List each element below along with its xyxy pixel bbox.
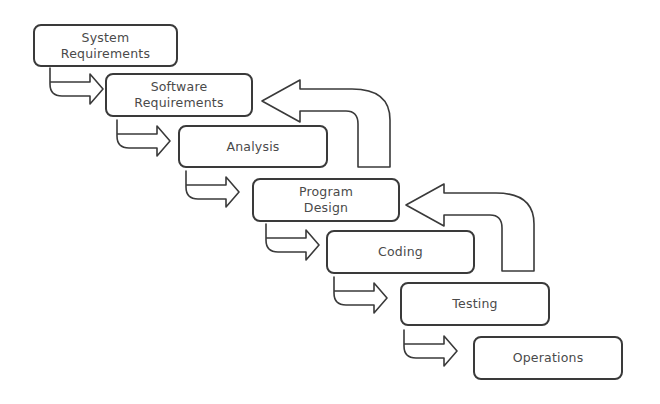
forward-arrow-3 [186,171,239,207]
stage-software-requirements: Software Requirements [105,73,253,117]
stage-label: Software Requirements [134,79,223,111]
forward-arrow-2 [117,120,170,156]
stage-system-requirements: System Requirements [33,24,178,67]
stage-analysis: Analysis [178,125,328,168]
stage-label: Operations [513,350,584,366]
stage-testing: Testing [400,282,550,326]
stage-operations: Operations [473,336,623,380]
forward-arrow-6 [404,330,457,366]
forward-arrow-4 [266,224,319,260]
forward-arrow-5 [334,277,387,313]
stage-label: Analysis [226,139,279,155]
stage-label: Program Design [299,184,353,216]
stage-label: Testing [452,296,497,312]
forward-arrow-1 [50,68,103,104]
stage-label: Coding [378,244,423,260]
stage-label: System Requirements [61,30,150,62]
stage-program-design: Program Design [252,178,400,222]
stage-coding: Coding [326,230,475,274]
